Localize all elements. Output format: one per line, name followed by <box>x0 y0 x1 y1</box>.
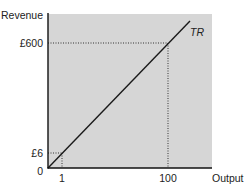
y-tick-6: £6 <box>31 147 43 159</box>
origin-label: 0 <box>37 165 43 177</box>
x-tick-1: 1 <box>59 172 65 184</box>
plot-area <box>48 14 212 168</box>
x-tick-100: 100 <box>159 172 177 184</box>
y-tick-600: £600 <box>20 37 44 49</box>
tr-series-label: TR <box>190 26 204 38</box>
y-axis-label: Revenue <box>1 9 43 21</box>
total-revenue-chart: Revenue £600 £6 0 1 100 Output TR <box>0 0 244 193</box>
x-axis-label: Output <box>212 172 244 184</box>
